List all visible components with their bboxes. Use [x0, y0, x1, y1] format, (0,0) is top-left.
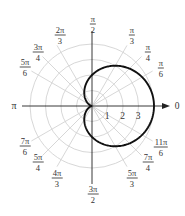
- angle-label-pi: π: [11, 100, 16, 111]
- angle-label-11pi-over-6: 11π 6: [154, 138, 168, 157]
- radial-tick-1: 1: [105, 111, 110, 121]
- angle-label-3pi-over-2: 3π 2: [88, 185, 99, 204]
- radial-tick-3: 3: [136, 111, 141, 121]
- radial-tick-2: 2: [120, 111, 125, 121]
- angle-label-7pi-over-6: 7π 6: [20, 137, 31, 156]
- angle-label-2pi-over-3: 2π 3: [55, 26, 66, 45]
- angle-label-5pi-over-6: 5π 6: [20, 58, 31, 77]
- angle-label-pi-over-3: π 3: [129, 26, 135, 45]
- angle-label-0: 0: [175, 101, 180, 111]
- angle-label-pi-over-6: π 6: [158, 59, 164, 78]
- angle-label-4pi-over-3: 4π 3: [52, 169, 63, 188]
- angle-label-pi-over-4: π 4: [145, 43, 151, 62]
- arrow-head-icon: [162, 103, 170, 109]
- angle-label-3pi-over-4: 3π 4: [33, 43, 44, 62]
- angle-label-5pi-over-3: 5π 3: [127, 169, 138, 188]
- angle-label-pi-over-2: π 2: [90, 15, 96, 34]
- angle-label-7pi-over-4: 7π 4: [143, 153, 154, 172]
- angle-label-5pi-over-4: 5π 4: [33, 153, 44, 172]
